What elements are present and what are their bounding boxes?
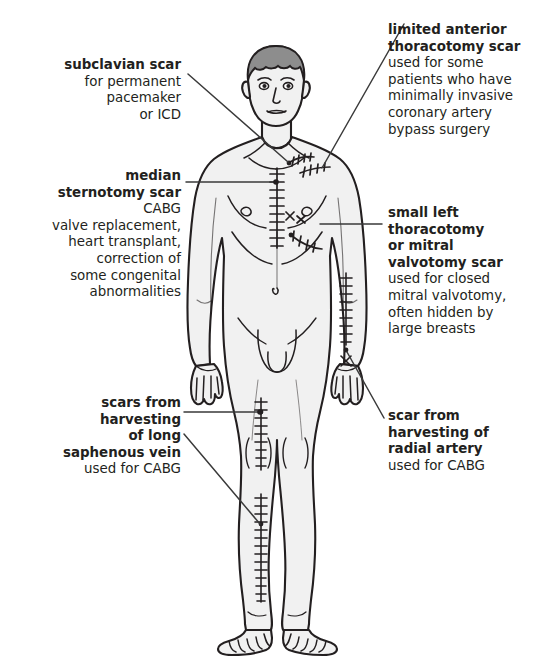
saphenous-line-1: used for CABG — [1, 461, 181, 478]
label-median-sternotomy-scar: median sternotomy scar CABG valve replac… — [0, 168, 181, 301]
radial-heading-2: harvesting of — [388, 425, 553, 442]
mitral-heading-4: valvotomy scar — [388, 255, 553, 272]
mitral-line-2: mitral valvotomy, — [388, 288, 553, 305]
subclavian-heading: subclavian scar — [1, 57, 181, 74]
label-small-left-thoracotomy-scar: small left thoracotomy or mitral valvoto… — [388, 205, 553, 338]
mitral-line-1: used for closed — [388, 271, 553, 288]
sternotomy-line-1: CABG — [0, 201, 181, 218]
sternotomy-line-3: heart transplant, — [0, 234, 181, 251]
thoracotomy-line-5: bypass surgery — [388, 122, 553, 139]
mitral-heading-2: thoracotomy — [388, 222, 553, 239]
saphenous-heading-2: harvesting — [1, 412, 181, 429]
mitral-line-4: large breasts — [388, 321, 553, 338]
thoracotomy-line-3: minimally invasive — [388, 88, 553, 105]
sternotomy-line-6: abnormalities — [0, 284, 181, 301]
sternotomy-line-2: valve replacement, — [0, 218, 181, 235]
thoracotomy-heading-2: thoracotomy scar — [388, 39, 553, 56]
radial-heading-1: scar from — [388, 408, 553, 425]
sternotomy-line-4: correction of — [0, 251, 181, 268]
saphenous-heading-4: saphenous vein — [1, 445, 181, 462]
label-radial-artery-scar: scar from harvesting of radial artery us… — [388, 408, 553, 474]
mitral-heading-3: or mitral — [388, 238, 553, 255]
label-limited-anterior-thoracotomy-scar: limited anterior thoracotomy scar used f… — [388, 22, 553, 138]
thoracotomy-line-2: patients who have — [388, 72, 553, 89]
sternotomy-heading-1: median — [0, 168, 181, 185]
diagram-canvas: subclavian scar for permanent pacemaker … — [0, 0, 553, 662]
saphenous-heading-3: of long — [1, 428, 181, 445]
label-saphenous-vein-scars: scars from harvesting of long saphenous … — [1, 395, 181, 478]
sternotomy-line-5: some congenital — [0, 268, 181, 285]
mitral-heading-1: small left — [388, 205, 553, 222]
thoracotomy-line-4: coronary artery — [388, 105, 553, 122]
subclavian-line-2: pacemaker — [1, 90, 181, 107]
radial-line-1: used for CABG — [388, 458, 553, 475]
subclavian-line-1: for permanent — [1, 74, 181, 91]
thoracotomy-heading-1: limited anterior — [388, 22, 553, 39]
label-subclavian-scar: subclavian scar for permanent pacemaker … — [1, 57, 181, 123]
sternotomy-heading-2: sternotomy scar — [0, 185, 181, 202]
mitral-line-3: often hidden by — [388, 305, 553, 322]
radial-heading-3: radial artery — [388, 441, 553, 458]
thoracotomy-line-1: used for some — [388, 55, 553, 72]
saphenous-heading-1: scars from — [1, 395, 181, 412]
subclavian-line-3: or ICD — [1, 107, 181, 124]
